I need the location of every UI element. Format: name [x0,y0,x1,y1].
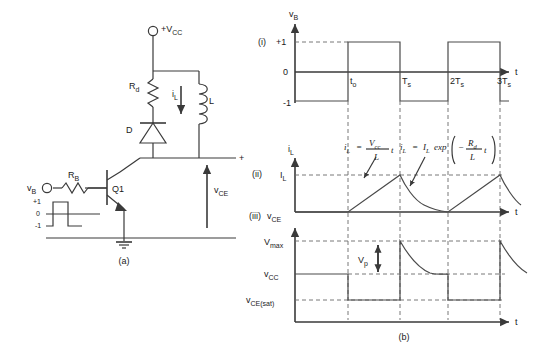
vb-level-plus1: +1 [276,37,286,47]
svg-text:iL: iL [344,142,351,154]
input-terminal [42,183,51,192]
vb-xtick-t0: to [350,76,357,88]
vce-level-vmax: Vmax [264,237,284,249]
vce-axis-label: vCE [267,211,282,223]
svg-text:iL: iL [400,142,407,154]
supply-label: +VCC [161,24,182,36]
row-marker-ii: (ii) [252,169,262,179]
vb-axis-label: vB [289,9,299,21]
input-source-label: vB [27,183,37,195]
vce-trace [295,241,527,300]
resistor-rb: RB [53,170,107,193]
vb-x-axis-label: t [515,67,518,77]
svg-text:−: − [458,142,464,152]
input-level-plus1: +1 [33,198,41,205]
il-trace [295,175,521,212]
inductor-label: L [209,96,214,106]
vb-level-zero: 0 [283,67,288,77]
panel-b-waveforms: (i) vB t +1 0 -1 to Ts 2Ts 3Ts [246,9,527,342]
il-axis-label: iL [288,144,294,156]
svg-text:IL: IL [422,142,430,154]
svg-text:=: = [412,142,418,152]
ground-symbol [116,238,132,248]
transistor-q1: Q1 [85,170,127,238]
svg-text:exp: exp [434,142,447,152]
transistor-label: Q1 [112,184,124,194]
il-level-label: IL [280,170,287,182]
vce-label: vCE [214,185,229,197]
input-waveform: +1 0 -1 [33,198,100,229]
panel-a-caption: (a) [119,256,130,266]
vp-label: Vp [358,255,368,268]
inductor-current-arrow: iL [172,86,181,114]
vb-xtick-ts: Ts [402,76,412,88]
svg-text:L: L [469,152,475,162]
vb-xtick-3ts: 3Ts [497,76,512,88]
resistor-rd-label: Rd [129,81,140,93]
figure-root: +VCC Rd D L iL [0,0,541,346]
vb-level-minus1: -1 [283,98,291,108]
svg-text:t: t [391,145,394,155]
supply-terminal [148,26,157,35]
vce-level-vcesat: vCE(sat) [246,295,274,308]
resistor-rb-label: RB [68,170,80,182]
panel-a-circuit: +VCC Rd D L iL [27,24,244,266]
svg-text:=: = [356,142,362,152]
resistor-rd: Rd [129,71,158,118]
waveform-row-vce: (iii) vCE t Vmax vCC vCE(sat) Vp [246,211,527,327]
vp-marker: Vp [358,245,378,272]
vce-arrow: vCE [207,165,229,228]
input-level-zero: 0 [36,210,40,217]
equation-decay: iL = IL exp − Rd L t [400,136,495,186]
svg-text:Vcc: Vcc [369,138,380,150]
diode-d: D [126,118,166,158]
equation-rise: iL = Vcc L t [344,138,394,178]
waveform-row-il: (ii) iL t IL iL = Vcc L t iL [252,136,521,217]
vb-xtick-2ts: 2Ts [450,76,465,88]
svg-text:Rd: Rd [467,138,478,150]
figure-svg: +VCC Rd D L iL [0,0,541,346]
row-marker-i: (i) [258,37,266,47]
il-x-axis-label: t [515,207,518,217]
collector-lead [120,158,140,172]
diode-label: D [126,125,133,135]
panel-b-caption: (b) [399,332,410,342]
inductor-l: L [199,84,214,158]
output-polarity-label: + [239,153,244,163]
waveform-row-vb: (i) vB t +1 0 -1 to Ts 2Ts 3Ts [258,9,518,108]
vce-x-axis-label: t [515,317,518,327]
input-level-minus1: -1 [35,222,41,229]
svg-text:t: t [484,145,487,155]
timing-guides [348,101,500,320]
vce-level-vcc: vCC [264,269,279,281]
inductor-current-label: iL [172,89,178,101]
row-marker-iii: (iii) [249,211,261,221]
